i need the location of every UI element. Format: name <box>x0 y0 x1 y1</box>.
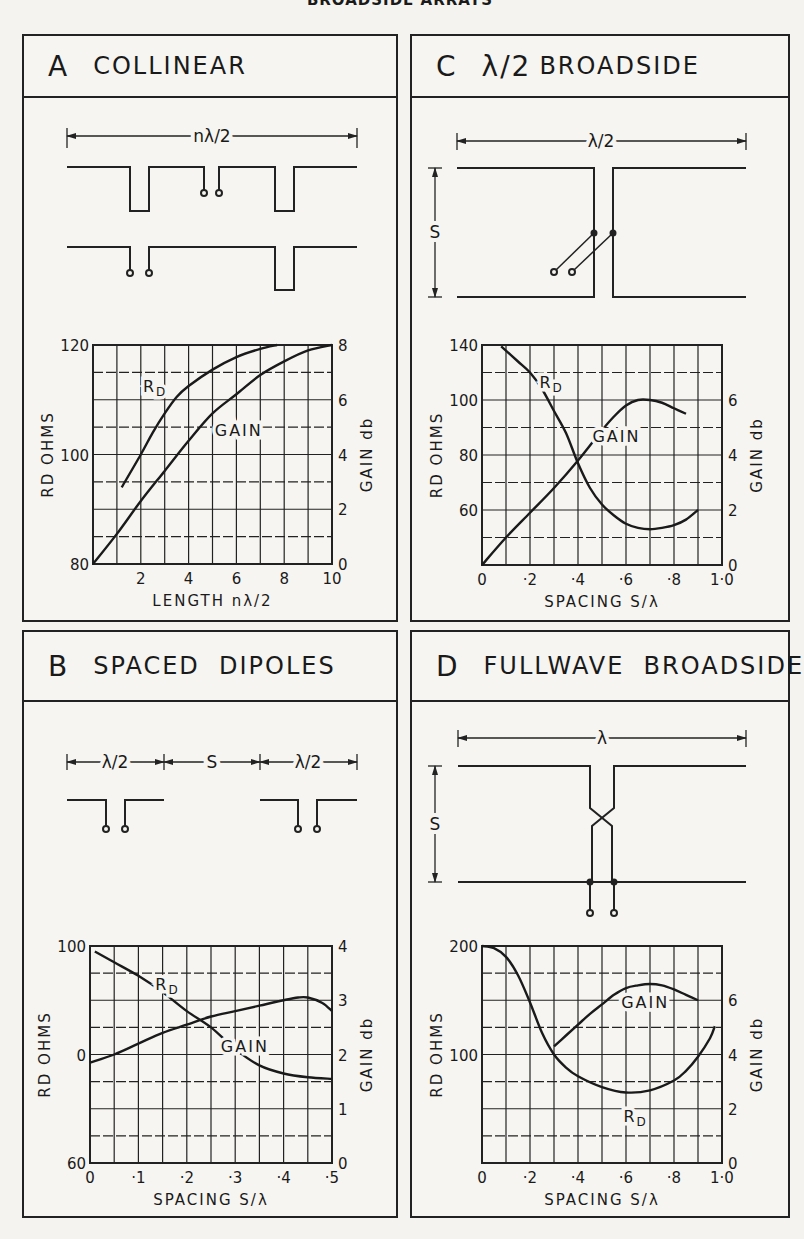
panel-fullwave-broadside: D FULLWAVE BROADSIDE <box>410 630 790 1218</box>
panel-letter: B <box>48 650 69 683</box>
page-title: BROADSIDE ARRAYS <box>0 0 800 9</box>
panel-letter: C <box>436 50 458 83</box>
panel-header: A COLLINEAR <box>24 36 396 98</box>
panel-letter: A <box>48 50 69 83</box>
panel-spaced-dipoles: B SPACED DIPOLES <box>22 630 398 1218</box>
panel-title: COLLINEAR <box>93 52 247 80</box>
panel-half-wave-broadside: C λ/2 BROADSIDE <box>410 34 790 622</box>
panel-letter: D <box>436 650 460 683</box>
panel-header: B SPACED DIPOLES <box>24 632 396 702</box>
panel-title-prefix: λ/2 <box>482 50 532 83</box>
panel-title: FULLWAVE BROADSIDE <box>484 652 804 680</box>
panel-title: SPACED DIPOLES <box>93 652 336 680</box>
panel-header: D FULLWAVE BROADSIDE <box>412 632 788 702</box>
panel-title: BROADSIDE <box>539 52 699 80</box>
panel-collinear: A COLLINEAR <box>22 34 398 622</box>
panel-header: C λ/2 BROADSIDE <box>412 36 788 98</box>
